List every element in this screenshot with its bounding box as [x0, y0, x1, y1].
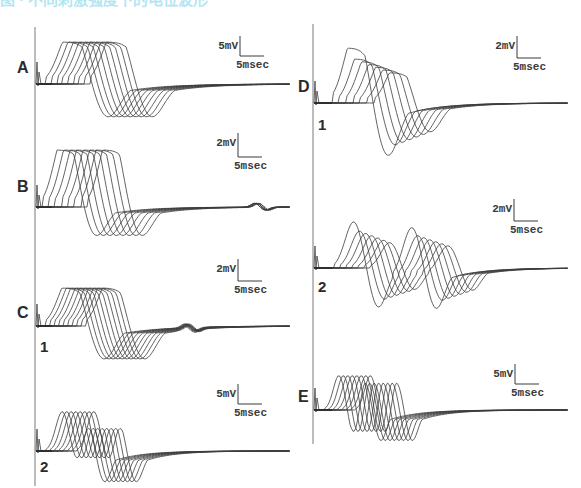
stimulus-artifact	[314, 81, 319, 105]
voltage-scale-label: 2mV	[216, 137, 236, 149]
time-scale-label: 5msec	[511, 387, 544, 399]
waveform-trace	[36, 412, 290, 482]
waveform-trace	[36, 288, 290, 359]
waveform-trace	[314, 65, 568, 140]
stimulus-artifact	[36, 185, 41, 209]
panel-label: B	[17, 178, 29, 195]
stimulus-artifact	[314, 388, 319, 412]
time-scale-label: 5msec	[234, 284, 267, 296]
voltage-scale-label: 5mV	[218, 40, 238, 52]
waveform-trace	[314, 231, 568, 300]
scale-bar	[238, 133, 262, 157]
waveform-trace	[36, 288, 290, 359]
panel-label: E	[298, 388, 309, 405]
waveform-trace	[36, 288, 290, 359]
time-scale-label: 5msec	[513, 61, 546, 73]
scale-bar	[238, 384, 262, 404]
scale-bar	[514, 199, 538, 221]
time-scale-label: 5msec	[234, 160, 267, 172]
waveform-trace	[36, 288, 290, 359]
waveform-trace	[36, 42, 290, 117]
panel-label: C	[17, 304, 29, 321]
waveform-trace	[314, 236, 568, 296]
waveform-trace	[36, 412, 290, 482]
waveform-trace	[36, 288, 290, 359]
waveform-trace	[36, 288, 290, 359]
panel-label: D	[298, 78, 310, 95]
time-scale-label: 5msec	[510, 224, 543, 236]
panel-label: A	[17, 59, 29, 76]
voltage-scale-label: 2mV	[492, 203, 512, 215]
panel-d2: 22mV5msec	[314, 199, 568, 308]
scale-bar	[240, 36, 264, 56]
waveform-trace	[36, 288, 290, 359]
panel-e: E5mV5msec	[298, 364, 568, 440]
waveform-trace	[36, 412, 290, 482]
waveform-trace	[36, 412, 290, 482]
waveform-trace	[36, 412, 290, 482]
voltage-scale-label: 5mV	[216, 388, 236, 400]
panel-b: B2mV5msec	[17, 133, 290, 235]
waveform-trace	[36, 288, 290, 359]
panel-d1: D12mV5msec	[298, 36, 568, 155]
scale-bar	[515, 364, 539, 384]
panel-c2: 25mV5msec	[36, 384, 290, 482]
scale-bar	[238, 259, 262, 281]
waveform-trace	[314, 67, 568, 137]
voltage-scale-label: 5mV	[493, 368, 513, 380]
waveform-trace	[36, 412, 290, 482]
waveform-trace	[314, 73, 568, 132]
scale-bar	[517, 36, 541, 58]
time-scale-label: 5msec	[234, 407, 267, 419]
panels-group: A5mV5msecB2mV5msecC12mV5msec25mV5msecD12…	[17, 36, 568, 482]
waveform-trace	[36, 288, 290, 359]
panel-sublabel: 1	[40, 338, 48, 355]
stimulus-artifact	[36, 429, 41, 453]
waveform-figure: A5mV5msecB2mV5msecC12mV5msec25mV5msecD12…	[0, 0, 581, 488]
panel-c1: C12mV5msec	[17, 259, 290, 359]
panel-sublabel: 1	[318, 116, 326, 133]
voltage-scale-label: 2mV	[495, 40, 515, 52]
stimulus-artifact	[36, 62, 41, 86]
waveform-trace	[36, 412, 290, 482]
waveform-trace	[36, 412, 290, 482]
time-scale-label: 5msec	[236, 59, 269, 71]
waveform-trace	[36, 288, 290, 359]
panel-sublabel: 2	[40, 458, 48, 475]
stimulus-artifact	[36, 304, 41, 328]
voltage-scale-label: 2mV	[216, 263, 236, 275]
panel-a: A5mV5msec	[17, 36, 290, 117]
stimulus-artifact	[314, 246, 319, 270]
panel-sublabel: 2	[318, 278, 326, 295]
waveform-trace	[314, 62, 568, 142]
waveform-trace	[314, 70, 568, 134]
